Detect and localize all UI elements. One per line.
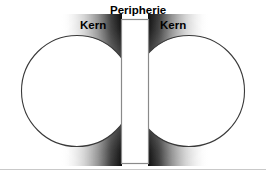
- label-peripherie: Peripherie: [110, 5, 166, 17]
- right-core-circle: [134, 36, 245, 147]
- left-core-circle: [22, 36, 133, 147]
- diagram-canvas: [0, 0, 266, 170]
- label-kern-right: Kern: [160, 20, 186, 32]
- label-kern-left: Kern: [80, 20, 106, 32]
- periphery-rectangle: [122, 20, 149, 164]
- kern-peripherie-diagram: Kern Peripherie Kern: [0, 0, 266, 170]
